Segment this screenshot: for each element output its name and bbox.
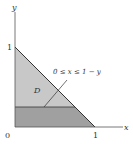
- region-inequality-label: 0 ≤ x ≤ 1 − y: [53, 68, 102, 76]
- origin-label: 0: [5, 131, 10, 140]
- region-label: D: [33, 86, 41, 95]
- horizontal-strip: [15, 107, 95, 127]
- x-tick-label: 1: [93, 131, 98, 140]
- y-axis-label: y: [11, 3, 17, 12]
- x-axis-label: x: [124, 123, 129, 132]
- integration-region-diagram: y x 1 0 1 D 0 ≤ x ≤ 1 − y: [0, 0, 133, 148]
- y-tick-label: 1: [7, 43, 12, 52]
